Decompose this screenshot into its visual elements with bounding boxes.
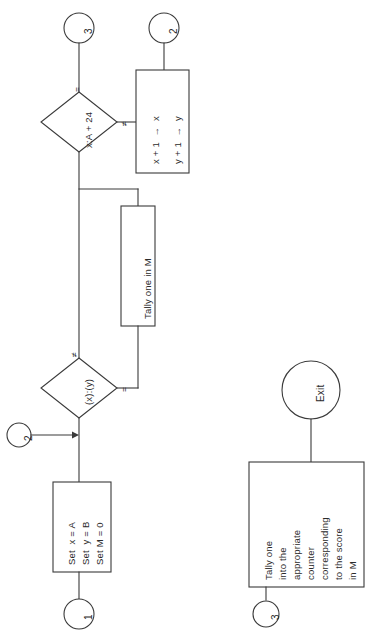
branch-label-upper-notequal: ≠	[119, 121, 129, 126]
final-tally-line1: Tally one	[262, 541, 276, 580]
connector-label-1-bottom: 1	[83, 614, 94, 620]
set-box-line1: Set x = A	[66, 522, 79, 565]
final-tally-line3: appropriate	[290, 530, 304, 580]
final-tally-line7: in M	[346, 561, 360, 580]
connector-label-3-bottom: 3	[270, 614, 281, 620]
tally-box-label: Tally one in M	[142, 258, 155, 319]
final-tally-line6: to the score	[332, 528, 346, 580]
final-tally-line4: counter	[304, 547, 318, 580]
decision-lower-label: (x):(y)	[83, 379, 96, 405]
decision-upper-diamond	[41, 92, 117, 152]
set-box-line3: Set M = 0	[94, 522, 107, 565]
decision-lower-diamond	[41, 358, 117, 418]
arrowhead-into-set-box	[72, 432, 79, 439]
final-tally-line2: into the	[276, 547, 290, 580]
branch-label-lower-notequal: ≠	[69, 352, 79, 357]
connector-label-2-left: 2	[23, 435, 34, 441]
branch-label-lower-equal: =	[119, 387, 129, 392]
flowchart-canvas: 3 2 x:A + 24 = ≠ x + 1 → x y + 1 → y Tal…	[0, 0, 376, 641]
decision-upper-label: x:A + 24	[83, 112, 96, 148]
connector-label-3-top: 3	[83, 28, 94, 34]
increment-box-line1: x + 1 → x	[150, 116, 163, 164]
exit-terminal	[282, 361, 340, 419]
increment-box-line2: y + 1 → y	[172, 116, 185, 164]
connector-label-2-top: 2	[168, 28, 179, 34]
set-box-line2: Set y = B	[80, 522, 93, 565]
branch-label-upper-equal: =	[72, 87, 82, 92]
final-tally-line5: corresponding	[318, 517, 332, 580]
exit-terminal-label: Exit	[315, 385, 326, 402]
